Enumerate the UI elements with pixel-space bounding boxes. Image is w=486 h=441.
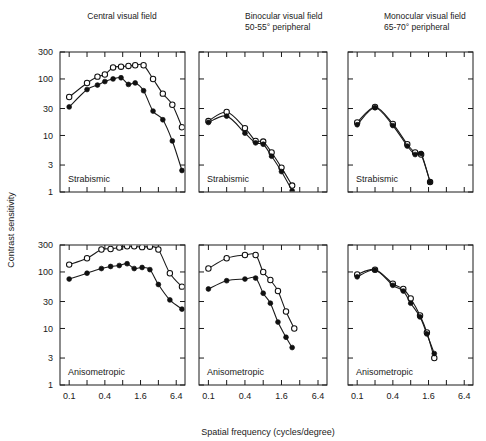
contrast-sensitivity-figure: Central visual field Binocular visual fi…: [0, 0, 486, 441]
data-point-open-circle: [141, 63, 146, 68]
y-tick-label: 30: [43, 297, 53, 307]
data-point-filled-circle: [67, 277, 72, 282]
data-point-filled-circle: [284, 335, 289, 340]
x-tick-label: 6.4: [170, 391, 183, 401]
y-tick-label: 100: [38, 267, 53, 277]
data-point-filled-circle: [243, 277, 248, 282]
data-point-filled-circle: [276, 320, 281, 325]
data-point-filled-circle: [224, 278, 229, 283]
data-point-filled-circle: [413, 152, 418, 157]
data-point-open-circle: [253, 252, 258, 257]
data-point-filled-circle: [405, 144, 410, 149]
data-point-filled-circle: [108, 264, 113, 269]
x-tick-label: 0.4: [387, 391, 400, 401]
data-point-filled-circle: [390, 283, 395, 288]
y-tick-label: 10: [43, 324, 53, 334]
data-point-open-circle: [283, 309, 288, 314]
data-point-filled-circle: [373, 268, 378, 273]
column-title-central-line1: Central visual field: [87, 11, 157, 21]
x-tick-label: 6.4: [312, 391, 325, 401]
data-point-filled-circle: [180, 168, 185, 173]
data-point-filled-circle: [261, 291, 266, 296]
x-tick-label: 0.1: [351, 391, 364, 401]
data-point-open-circle: [66, 94, 71, 99]
x-tick-label: 6.4: [458, 391, 471, 401]
x-tick-label: 0.1: [63, 391, 76, 401]
x-tick-label: 0.4: [239, 391, 252, 401]
column-title-monocular-line1: Monocular visual field: [384, 11, 466, 21]
data-point-open-circle: [160, 91, 165, 96]
data-point-filled-circle: [156, 282, 161, 287]
data-point-filled-circle: [253, 276, 258, 281]
x-tick-label: 1.6: [134, 391, 147, 401]
y-tick-label: 3: [48, 160, 53, 170]
data-point-filled-circle: [147, 267, 152, 272]
data-point-filled-circle: [119, 75, 124, 80]
data-point-filled-circle: [279, 169, 284, 174]
data-point-filled-circle: [126, 82, 131, 87]
data-point-filled-circle: [224, 114, 229, 119]
data-point-filled-circle: [206, 120, 211, 125]
data-point-filled-circle: [268, 301, 273, 306]
data-point-open-circle: [150, 76, 155, 81]
data-point-filled-circle: [290, 345, 295, 350]
panel-label: Strabismic: [356, 174, 399, 184]
data-point-open-circle: [224, 256, 229, 261]
data-point-filled-circle: [170, 139, 175, 144]
data-point-filled-circle: [180, 307, 185, 312]
x-axis-label: Spatial frequency (cycles/degree): [201, 427, 335, 437]
data-point-open-circle: [84, 256, 89, 261]
data-point-filled-circle: [125, 261, 130, 266]
data-point-filled-circle: [99, 266, 104, 271]
data-point-filled-circle: [401, 289, 406, 294]
data-point-open-circle: [156, 247, 161, 252]
data-point-filled-circle: [408, 301, 413, 306]
data-point-open-circle: [170, 102, 175, 107]
y-tick-label: 1: [48, 380, 53, 390]
data-point-open-circle: [242, 252, 247, 257]
data-point-open-circle: [99, 247, 104, 252]
column-title-binocular-line1: Binocular visual field: [245, 11, 323, 21]
data-point-filled-circle: [253, 140, 258, 145]
data-point-open-circle: [268, 277, 273, 282]
data-point-open-circle: [102, 72, 107, 77]
panel-label: Strabismic: [207, 174, 250, 184]
column-title-monocular-line2: 65-70° peripheral: [384, 22, 449, 32]
data-point-filled-circle: [117, 263, 122, 268]
y-tick-label: 300: [38, 240, 53, 250]
y-tick-label: 10: [43, 131, 53, 141]
data-point-open-circle: [110, 65, 115, 70]
data-point-open-circle: [242, 125, 247, 130]
data-point-filled-circle: [355, 274, 360, 279]
panel-label: Anisometropic: [68, 367, 126, 377]
data-point-filled-circle: [95, 83, 100, 88]
data-point-filled-circle: [151, 109, 156, 114]
data-point-filled-circle: [85, 87, 90, 92]
data-point-open-circle: [117, 245, 122, 250]
data-point-filled-circle: [167, 298, 172, 303]
data-point-filled-circle: [432, 351, 437, 356]
data-point-filled-circle: [160, 117, 165, 122]
data-point-open-circle: [84, 80, 89, 85]
data-point-filled-circle: [206, 287, 211, 292]
data-point-open-circle: [179, 125, 184, 130]
panel-label: Strabismic: [68, 174, 111, 184]
y-tick-label: 3: [48, 353, 53, 363]
data-point-filled-circle: [418, 315, 423, 320]
x-tick-label: 0.4: [99, 391, 112, 401]
panel-label: Anisometropic: [207, 367, 265, 377]
data-point-filled-circle: [261, 142, 266, 147]
panel-label: Anisometropic: [356, 367, 414, 377]
data-point-open-circle: [133, 63, 138, 68]
data-point-filled-circle: [132, 266, 137, 271]
x-tick-label: 1.6: [275, 391, 288, 401]
column-title-binocular-line2: 50-55° peripheral: [245, 22, 310, 32]
data-point-open-circle: [261, 269, 266, 274]
y-tick-label: 1: [48, 187, 53, 197]
y-tick-label: 100: [38, 74, 53, 84]
data-point-open-circle: [126, 63, 131, 68]
x-tick-label: 1.6: [422, 391, 435, 401]
data-point-open-circle: [292, 326, 297, 331]
y-axis-label: Contrast sensitivity: [6, 192, 16, 268]
data-point-filled-circle: [355, 122, 360, 127]
